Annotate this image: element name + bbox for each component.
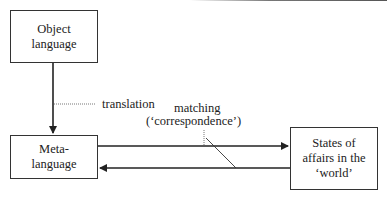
object-language-label-line1: Object	[31, 22, 76, 37]
translation-label: translation	[102, 97, 155, 111]
states-of-affairs-box: States of affairs in the ‘world’	[290, 127, 378, 190]
matching-label: matching	[174, 101, 221, 115]
meta-language-box: Meta- language	[10, 135, 98, 179]
object-language-label-line2: language	[31, 37, 76, 52]
meta-language-label-line1: Meta-	[31, 142, 76, 157]
correspondence-label: (‘correspondence’)	[146, 114, 241, 128]
states-label-line1: States of	[303, 136, 366, 151]
object-language-box: Object language	[10, 10, 98, 63]
states-label-line3: ‘world’	[303, 166, 366, 181]
states-label-line2: affairs in the	[303, 151, 366, 166]
matching-diagonal	[206, 138, 236, 168]
meta-language-label-line2: language	[31, 157, 76, 172]
